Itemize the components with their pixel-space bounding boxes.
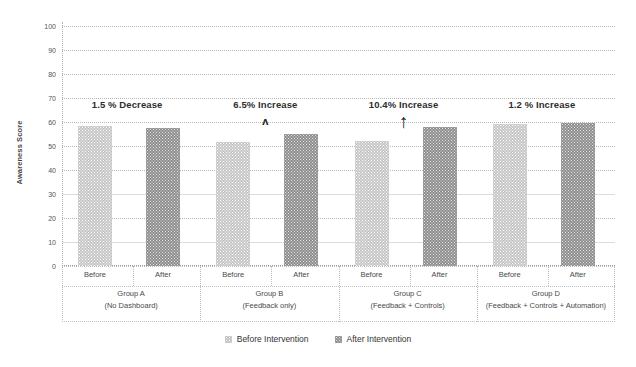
y-tick-label-20: 20	[48, 215, 56, 222]
gridline-90	[62, 50, 615, 51]
bar-after-group-3	[561, 123, 595, 266]
annotation-label-group-1: 6.5% Increase	[233, 99, 297, 110]
legend-swatch-before-icon	[225, 336, 232, 343]
bar-before-group-3	[493, 124, 527, 266]
caret-up-icon: ʌ	[262, 116, 268, 127]
sub-separator-2	[410, 266, 411, 286]
group-detail-1: (Feedback only)	[242, 300, 296, 312]
group-detail-2: (Feedback + Controls)	[370, 300, 444, 312]
group-label-1: Group B(Feedback only)	[242, 288, 296, 312]
group-name-2: Group C	[393, 289, 421, 298]
annotation-label-group-3: 1.2 % Increase	[508, 99, 575, 110]
y-axis-title: Awareness Score	[15, 103, 24, 203]
bar-before-group-0	[78, 126, 112, 266]
chart-legend: Before Intervention After Intervention	[0, 334, 636, 344]
y-tick-label-60: 60	[48, 119, 56, 126]
annotation-label-group-0: 1.5 % Decrease	[92, 99, 163, 110]
gridline-50	[62, 146, 615, 147]
bar-before-group-2	[355, 141, 389, 266]
gridline-100	[62, 26, 615, 27]
annotation-label-group-2: 10.4% Increase	[369, 99, 439, 110]
bar-before-group-1	[216, 142, 250, 266]
y-tick-label-50: 50	[48, 143, 56, 150]
y-tick-label-0: 0	[52, 263, 56, 270]
group-name-1: Group B	[255, 289, 283, 298]
y-tick-label-80: 80	[48, 71, 56, 78]
gridline-20	[62, 218, 615, 219]
group-labels: Group A(No Dashboard)Group B(Feedback on…	[62, 288, 615, 322]
legend-item-before: Before Intervention	[225, 334, 309, 344]
group-label-2: Group C(Feedback + Controls)	[370, 288, 444, 312]
group-name-0: Group A	[117, 289, 145, 298]
y-tick-label-100: 100	[44, 23, 56, 30]
sub-separator-3	[548, 266, 549, 286]
legend-label-before: Before Intervention	[237, 334, 309, 344]
legend-label-after: After Intervention	[347, 334, 412, 344]
bar-after-group-1	[284, 134, 318, 266]
group-name-3: Group D	[532, 289, 560, 298]
group-label-0: Group A(No Dashboard)	[104, 288, 157, 312]
bar-after-group-2	[423, 127, 457, 266]
sub-separator-0	[133, 266, 134, 286]
plot-area: 01020304050607080901001.5 % Decrease6.5%…	[62, 26, 615, 266]
gridline-80	[62, 74, 615, 75]
y-tick-label-40: 40	[48, 167, 56, 174]
legend-swatch-after-icon	[335, 336, 342, 343]
arrow-up-icon: ↑	[399, 112, 409, 131]
group-label-3: Group D(Feedback + Controls + Automation…	[486, 288, 606, 312]
y-tick-label-10: 10	[48, 239, 56, 246]
group-detail-3: (Feedback + Controls + Automation)	[486, 300, 606, 312]
gridline-10	[62, 242, 615, 243]
y-tick-label-90: 90	[48, 47, 56, 54]
sub-separator-1	[271, 266, 272, 286]
gridline-30	[62, 194, 615, 195]
gridline-40	[62, 170, 615, 171]
gridline-60	[62, 122, 615, 123]
y-tick-label-70: 70	[48, 95, 56, 102]
group-detail-0: (No Dashboard)	[104, 300, 157, 312]
bar-chart: Awareness Score 01020304050607080901001.…	[0, 0, 636, 367]
legend-item-after: After Intervention	[335, 334, 412, 344]
y-tick-label-30: 30	[48, 191, 56, 198]
plot-inner: 01020304050607080901001.5 % Decrease6.5%…	[62, 26, 615, 266]
bar-after-group-0	[146, 128, 180, 266]
